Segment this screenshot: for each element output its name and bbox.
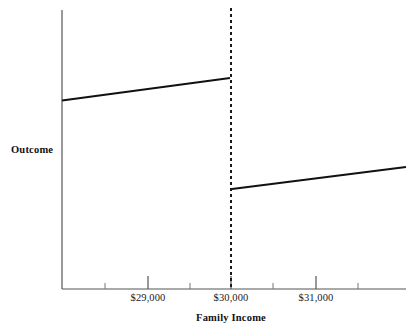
fit-line-below-cutoff bbox=[62, 78, 230, 101]
x-axis-title: Family Income bbox=[196, 312, 266, 323]
y-axis-title: Outcome bbox=[11, 144, 53, 155]
fit-line-above-cutoff bbox=[232, 167, 406, 189]
x-tick-label-30000: $30,000 bbox=[214, 292, 249, 303]
chart-figure: Outcome $29,000 $30,000 $31,000 Family I… bbox=[0, 0, 413, 330]
x-tick-label-31000: $31,000 bbox=[299, 292, 334, 303]
x-tick-label-29000: $29,000 bbox=[131, 292, 166, 303]
chart-plot-area bbox=[0, 0, 413, 330]
